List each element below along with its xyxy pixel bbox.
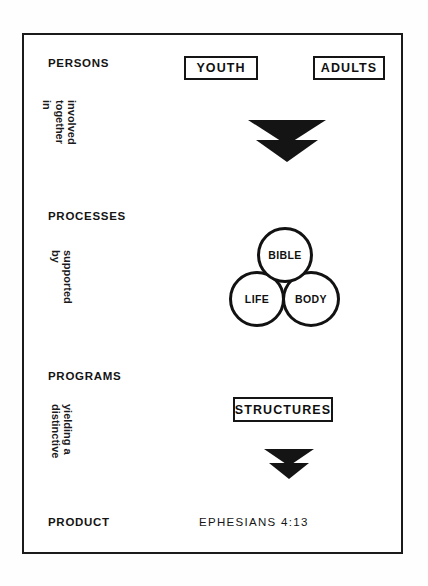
connector-line: yielding a — [62, 404, 74, 458]
double-chevron-down-icon — [264, 448, 314, 480]
stage-label-programs: PROGRAMS — [48, 370, 121, 382]
connector-line: distinctive — [49, 404, 61, 458]
diagram-frame-border — [22, 33, 403, 554]
connector-line: in — [41, 100, 53, 145]
diagram-canvas: PERSONS PROCESSES PROGRAMS PRODUCT invol… — [0, 0, 428, 586]
connector-line: involved — [66, 100, 78, 145]
stage-label-processes: PROCESSES — [48, 210, 126, 222]
scripture-reference: EPHESIANS 4:13 — [199, 516, 309, 528]
stage-label-product: PRODUCT — [48, 516, 110, 528]
stage-label-persons: PERSONS — [48, 57, 109, 69]
venn-circle-cluster: BIBLE LIFE BODY — [229, 227, 345, 333]
connector-line: by — [49, 250, 61, 304]
connector-line: together — [53, 100, 65, 145]
connector-text-involved-together-in: involved together in — [41, 100, 78, 145]
connector-text-yielding-a-distinctive: yielding a distinctive — [49, 404, 74, 458]
connector-line: supported — [62, 250, 74, 304]
connector-text-supported-by: supported by — [49, 250, 74, 304]
box-structures: STRUCTURES — [233, 397, 333, 422]
circle-bible: BIBLE — [257, 227, 313, 283]
box-adults: ADULTS — [313, 56, 385, 80]
box-youth: YOUTH — [184, 56, 258, 80]
double-chevron-down-icon — [248, 118, 326, 164]
